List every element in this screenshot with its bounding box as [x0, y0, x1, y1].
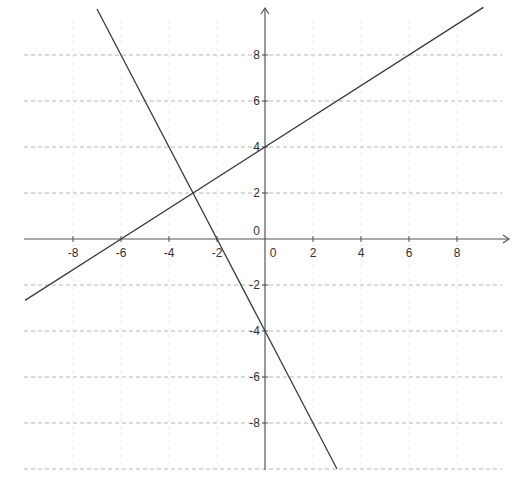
y-tick-label: 0: [253, 224, 260, 238]
horizontal-grid: [24, 55, 502, 469]
y-tick-label: -4: [249, 324, 260, 338]
y-tick-label: -6: [249, 370, 260, 384]
x-tick-label: 2: [310, 246, 317, 260]
coordinate-plane: -8-6-4-202468 86420-2-4-6-8: [0, 0, 515, 477]
x-tick-label: -2: [212, 246, 223, 260]
series-lines: [25, 7, 483, 469]
x-tick-labels: -8-6-4-202468: [68, 246, 461, 260]
y-tick-label: 8: [253, 48, 260, 62]
y-tick-label: -8: [249, 416, 260, 430]
x-tick-label: -8: [68, 246, 79, 260]
x-tick-label: 4: [358, 246, 365, 260]
x-tick-label: 0: [270, 246, 277, 260]
x-tick-label: 6: [406, 246, 413, 260]
axes: [24, 8, 509, 470]
y-tick-label: -2: [249, 278, 260, 292]
y-tick-label: 6: [253, 94, 260, 108]
y-tick-label: 2: [253, 186, 260, 200]
x-tick-label: 8: [454, 246, 461, 260]
x-tick-label: -6: [116, 246, 127, 260]
x-tick-label: -4: [164, 246, 175, 260]
